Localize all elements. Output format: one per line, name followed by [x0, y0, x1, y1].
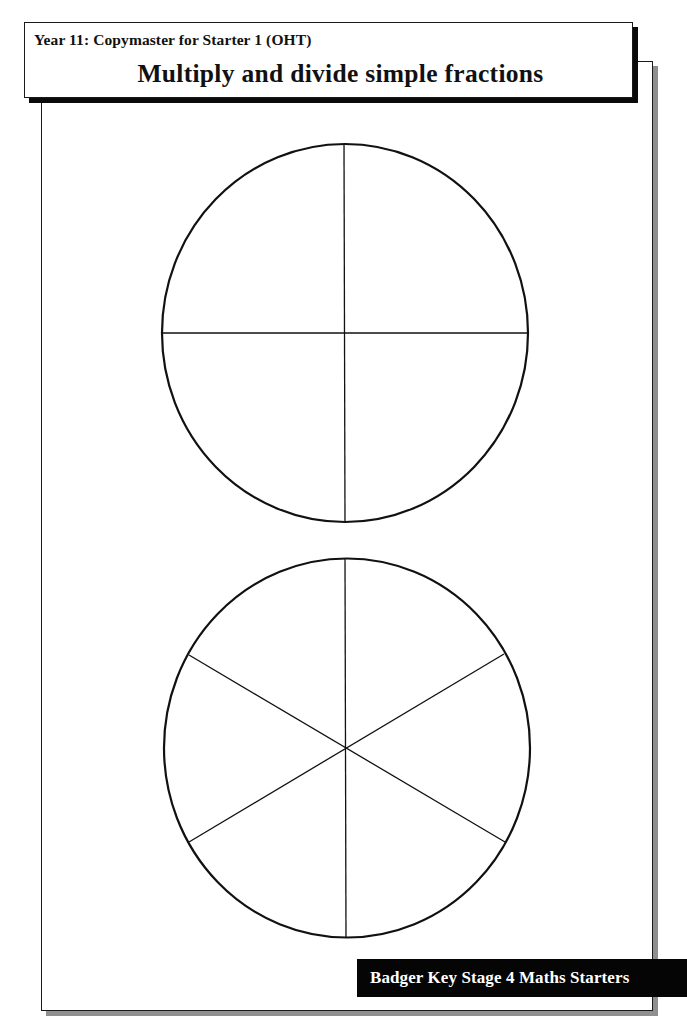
header-subtitle: Year 11: Copymaster for Starter 1 (OHT)	[34, 31, 311, 49]
header-box: Year 11: Copymaster for Starter 1 (OHT) …	[24, 22, 633, 98]
publisher-badge: Badger Key Stage 4 Maths Starters	[357, 959, 687, 997]
publisher-label: Badger Key Stage 4 Maths Starters	[370, 968, 629, 988]
page-frame	[41, 61, 653, 1011]
page-title: Multiply and divide simple fractions	[25, 59, 632, 89]
